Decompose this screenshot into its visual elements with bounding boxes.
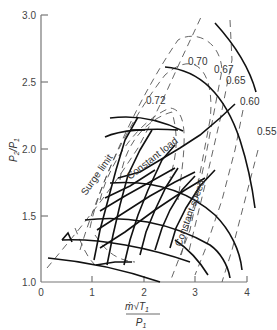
eff-label-072: 0.72 [146, 95, 166, 106]
eff-label-055: 0.55 [257, 126, 277, 137]
eff-label-067: 0.67 [214, 64, 234, 75]
eff-label-070: 0.70 [188, 56, 208, 67]
constant-speed-label: Constant speed [173, 178, 207, 248]
x-tick-1: 1 [89, 287, 95, 298]
y-tick-2.0: 2.0 [22, 144, 36, 155]
compressor-map-chart: 1.0 1.5 2.0 2.5 3.0 0 1 2 3 4 P2/P1 ṁ√T1… [0, 0, 277, 330]
x-tick-0: 0 [38, 287, 44, 298]
x-tick-2: 2 [141, 287, 147, 298]
eff-label-065: 0.65 [226, 75, 246, 86]
y-tick-3.0: 3.0 [22, 10, 36, 21]
eff-label-060: 0.60 [240, 96, 260, 107]
svg-text:P2/P1: P2/P1 [8, 138, 20, 162]
y-tick-1.5: 1.5 [22, 211, 36, 222]
svg-text:ṁ√T1: ṁ√T1 [125, 301, 149, 313]
x-tick-4: 4 [244, 287, 250, 298]
y-tick-2.5: 2.5 [22, 77, 36, 88]
y-tick-1.0: 1.0 [22, 277, 36, 288]
x-tick-3: 3 [192, 287, 198, 298]
y-axis-label: P2/P1 [8, 138, 20, 162]
x-axis-label: ṁ√T1 P1 [125, 301, 160, 329]
svg-text:P1: P1 [136, 317, 147, 329]
